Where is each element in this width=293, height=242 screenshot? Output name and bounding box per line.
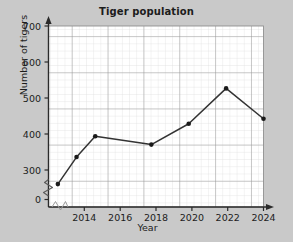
major-gridlines: [49, 26, 264, 207]
y-tick-label-500: 500: [23, 93, 41, 104]
y-tick-label-400: 400: [23, 129, 41, 140]
y-tick-label-0: 0: [35, 194, 41, 205]
data-point-2022: [224, 86, 229, 91]
data-point-2015: [93, 134, 98, 139]
data-point-2013: [56, 182, 61, 187]
x-tick-label-2024: 2024: [251, 212, 275, 223]
data-point-2024: [261, 116, 266, 121]
y-tick-label-700: 700: [23, 21, 41, 32]
x-tick-label-2018: 2018: [144, 212, 168, 223]
plot-area: 0 300 400 500 600 700 2014 2016 2018 202…: [0, 0, 293, 242]
y-axis-arrow-icon: [45, 16, 51, 24]
x-axis-arrow-icon: [266, 204, 274, 210]
data-point-2020: [186, 121, 191, 126]
data-point-2018: [149, 142, 154, 147]
tiger-population-chart: Tiger population Number of tigers Year: [0, 0, 293, 242]
y-tick-label-600: 600: [23, 57, 41, 68]
x-tick-label-2020: 2020: [180, 212, 204, 223]
x-tick-label-2016: 2016: [108, 212, 132, 223]
x-tick-label-2022: 2022: [216, 212, 240, 223]
y-tick-label-300: 300: [23, 165, 41, 176]
data-point-2014: [74, 155, 79, 160]
x-tick-label-2014: 2014: [72, 212, 96, 223]
